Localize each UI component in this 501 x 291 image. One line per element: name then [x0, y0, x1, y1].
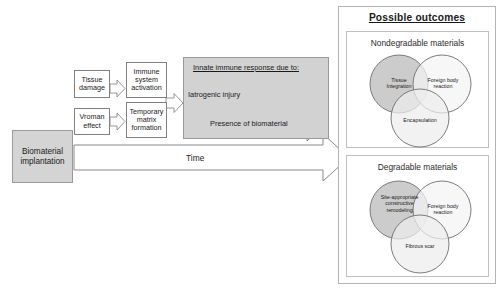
venn-label-fibrous-scar: Fibrous scar [399, 243, 441, 249]
node-immune-system-activation: Immune system activation [126, 62, 167, 98]
block-arrow-time [74, 134, 349, 181]
node-temporary-matrix-formation: Temporary matrix formation [126, 102, 167, 138]
subpanel-degradable-materials: Degradable materials Site-appropriate co… [346, 155, 489, 277]
block-arrow-iatrogenic-injury-label: Iatrogenic injury [188, 90, 240, 99]
node-biomaterial-implantation: Biomaterial implantation [12, 130, 73, 183]
block-arrow-presence-of-biomaterial-label: Presence of biomaterial [210, 119, 288, 128]
node-vroman-effect: Vroman effect [74, 108, 110, 135]
venn-label-site-appropriate-constructive-remodeling: Site-appropriate constructive remodeling [379, 194, 420, 213]
panel-possible-outcomes-title: Possible outcomes [339, 12, 495, 23]
node-temporary-matrix-formation-label: Temporary matrix formation [127, 108, 166, 132]
panel-possible-outcomes: Possible outcomes Nondegradable material… [338, 6, 496, 284]
block-arrow-time-label: Time [186, 153, 204, 163]
venn-nondegradable [347, 32, 490, 149]
venn-degradable [347, 156, 490, 278]
node-tissue-damage: Tissue damage [74, 70, 110, 98]
connector-arrow-into-innate-panel [166, 94, 183, 113]
venn-label-foreign-body-reaction-degradable: Foreign body reaction [422, 203, 464, 216]
node-vroman-effect-label: Vroman effect [75, 113, 109, 129]
venn-label-tissue-integration: Tissue Integration [379, 77, 419, 90]
figure-canvas: Biomaterial implantation Tissue damage V… [0, 0, 501, 291]
node-immune-system-activation-label: Immune system activation [127, 68, 166, 92]
subpanel-nondegradable-materials: Nondegradable materials Tissue Integrati… [346, 31, 489, 148]
connector-arrow-tissue-to-immune [110, 80, 125, 97]
node-biomaterial-implantation-label: Biomaterial implantation [13, 147, 72, 165]
panel-innate-immune-response-title: Innate immune response due to: [193, 63, 299, 72]
connector-arrow-vroman-to-matrix [110, 113, 125, 130]
venn-label-encapsulation: Encapsulation [399, 117, 441, 123]
node-tissue-damage-label: Tissue damage [75, 76, 109, 92]
venn-label-foreign-body-reaction: Foreign body reaction [422, 77, 464, 90]
